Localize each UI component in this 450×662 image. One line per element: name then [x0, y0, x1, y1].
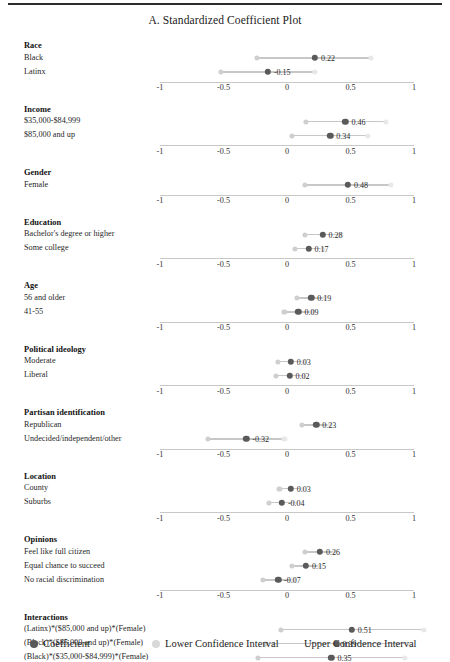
upper-ci-dot [368, 55, 373, 60]
row-label: Republican [24, 420, 62, 429]
legend-item-lower-ci: Lower Confidence Interval [152, 638, 279, 649]
x-axis-tick-label: 0 [285, 387, 289, 396]
x-axis-tick-label: 1 [412, 83, 416, 92]
coefficient-dot [288, 485, 294, 491]
x-axis-tick-label: -0.5 [217, 450, 230, 459]
legend-label-coefficient: Coefficient [43, 638, 90, 649]
x-axis-tick-label: 0.5 [345, 387, 355, 396]
coefficient-value-label: 0.03 [297, 484, 311, 493]
x-axis-tick-label: 0 [285, 147, 289, 156]
x-axis-tick-label: 0 [285, 323, 289, 332]
x-axis-tick-label: 0.5 [345, 323, 355, 332]
x-axis-tick-label: -1 [157, 387, 164, 396]
group-heading-interactions: Interactions [24, 613, 68, 622]
x-axis-tick-label: -1 [157, 450, 164, 459]
x-axis-tick-label: -1 [157, 83, 164, 92]
coefficient-dot [303, 563, 309, 569]
row-label: Black [24, 53, 43, 62]
group-heading-location: Location [24, 472, 56, 481]
coefficient-plot-figure: A. Standardized Coefficient Plot RaceBla… [0, 0, 450, 662]
coefficient-value-label: -0.04 [288, 498, 305, 507]
coefficient-value-label: 0.46 [351, 117, 365, 126]
lower-ci-dot [300, 422, 305, 427]
x-axis-tick-label: 1 [412, 514, 416, 523]
x-axis-tick-label: -0.5 [217, 260, 230, 269]
lower-ci-dot [273, 373, 278, 378]
x-axis-tick-label: 0 [285, 196, 289, 205]
coefficient-value-label: 0.17 [315, 244, 329, 253]
x-axis-tick-label: 1 [412, 450, 416, 459]
row-label: Suburbs [24, 497, 51, 506]
x-axis-tick-label: 0.5 [345, 196, 355, 205]
x-axis-tick-label: -1 [157, 591, 164, 600]
coefficient-value-label: 0.03 [297, 357, 311, 366]
lower-ci-dot-icon [152, 640, 160, 648]
coefficient-value-label: -0.15 [274, 68, 291, 77]
row-label: County [24, 483, 48, 492]
group-heading-gender: Gender [24, 168, 51, 177]
x-axis-tick-label: -1 [157, 147, 164, 156]
x-axis-tick-label: -0.5 [217, 514, 230, 523]
coefficient-dot [319, 231, 325, 237]
lower-ci-dot [303, 119, 308, 124]
row-label: Moderate [24, 356, 56, 365]
x-axis-tick-label: 0 [285, 260, 289, 269]
coefficient-dot [349, 626, 355, 632]
upper-ci-dot [389, 182, 394, 187]
x-axis-tick-label: -0.5 [217, 147, 230, 156]
x-axis-tick-label: 1 [412, 591, 416, 600]
x-axis-tick-label: 0 [285, 450, 289, 459]
x-axis-tick-label: 0.5 [345, 147, 355, 156]
lower-ci-dot [218, 69, 223, 74]
coefficient-value-label: -0.32 [252, 435, 269, 444]
row-label: (Latinx)*($85,000 and up)*(Female) [24, 624, 145, 633]
legend: Coefficient Lower Confidence Interval Up… [0, 636, 450, 658]
coefficient-dot [286, 372, 292, 378]
x-axis-tick-label: 1 [412, 196, 416, 205]
row-label: Liberal [24, 370, 48, 379]
coefficient-value-label: 0.48 [354, 181, 368, 190]
group-heading-income: Income [24, 105, 51, 114]
lower-ci-dot [206, 436, 211, 441]
coefficient-value-label: 0.28 [329, 230, 343, 239]
coefficient-dot [305, 245, 311, 251]
x-axis-tick-label: 0.5 [345, 83, 355, 92]
x-axis-tick-label: -1 [157, 196, 164, 205]
x-axis-tick-label: -1 [157, 260, 164, 269]
coefficient-dot [295, 309, 301, 315]
upper-ci-dot [366, 133, 371, 138]
row-label: $35,000-$84,999 [24, 116, 80, 125]
lower-ci-dot [260, 577, 265, 582]
group-heading-political-ideology: Political ideology [24, 345, 86, 354]
coefficient-value-label: 0.15 [312, 562, 326, 571]
row-label: Bachelor's degree or higher [24, 229, 114, 238]
coefficient-dot [313, 422, 319, 428]
x-axis-tick-label: 0.5 [345, 514, 355, 523]
lower-ci-dot [302, 182, 307, 187]
group-heading-education: Education [24, 218, 61, 227]
coefficient-dot [288, 358, 294, 364]
lower-ci-dot [289, 563, 294, 568]
legend-label-lower-ci: Lower Confidence Interval [165, 638, 279, 649]
group-heading-age: Age [24, 281, 38, 290]
lower-ci-dot [302, 549, 307, 554]
coefficient-dot [279, 499, 285, 505]
legend-label-upper-ci: Upper Confidence Interval [304, 638, 417, 649]
coefficient-value-label: 0.02 [296, 371, 310, 380]
lower-ci-dot [292, 246, 297, 251]
group-heading-partisan-identification: Partisan identification [24, 408, 105, 417]
coefficient-value-label: 0.19 [317, 294, 331, 303]
coefficient-value-label: 0.34 [336, 131, 350, 140]
x-axis-tick-label: 0.5 [345, 591, 355, 600]
x-axis-tick-label: 1 [412, 260, 416, 269]
upper-ci-dot [383, 119, 388, 124]
group-heading-race: Race [24, 41, 42, 50]
x-axis-tick-label: -1 [157, 323, 164, 332]
row-label: No racial discrimination [24, 575, 104, 584]
coefficient-dot [345, 182, 351, 188]
row-label: Undecided/independent/other [24, 434, 121, 443]
x-axis-tick-label: 0 [285, 514, 289, 523]
x-axis-tick-label: 0.5 [345, 260, 355, 269]
x-axis-tick-label: 0 [285, 591, 289, 600]
lower-ci-dot [302, 232, 307, 237]
